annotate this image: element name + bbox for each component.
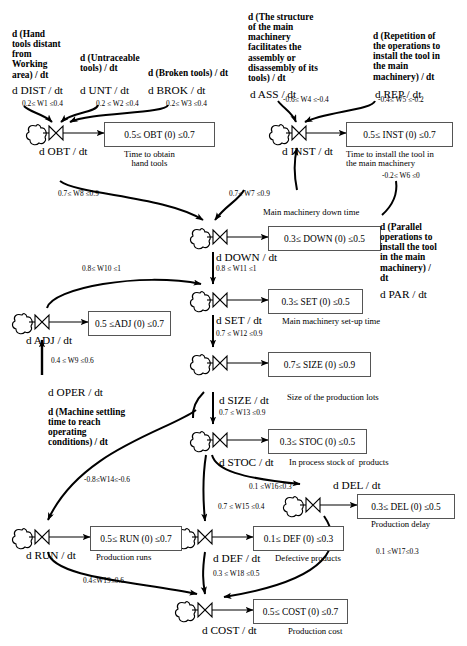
weight-label-W6: -0.2≤ W6 ≤0	[382, 172, 420, 180]
rate-label-SET: d SET / dt	[216, 314, 262, 326]
rate-label-RUN: d RUN / dt	[26, 549, 76, 561]
caption-DOWN: Main machinery down time	[263, 208, 359, 217]
caption-SIZE: Size of the production lots	[287, 393, 379, 402]
input-rate-PAR: d PAR / dt	[380, 288, 427, 300]
caption-DEF: Defective products	[275, 554, 341, 563]
weight-label-W17: 0.1 ≤W17≤0.3	[376, 548, 419, 556]
system-dynamics-diagram: d (Hand tools distant from Working area)…	[0, 0, 467, 646]
weight-label-W15: 0.7 ≤ W15 ≤0.4	[218, 503, 264, 511]
stock-box-SET: 0.3≤ SET (0) ≤0.5	[268, 289, 363, 314]
caption-SET: Main machinery set-up time	[282, 317, 380, 326]
stock-box-DOWN: 0.3≤ DOWN (0) ≤0.5	[268, 226, 381, 251]
stock-box-ADJ: 0.5 ≤ADJ (0) ≤0.7	[88, 311, 171, 336]
stock-box-SIZE: 0.7≤ SIZE (0) ≤0.9	[268, 352, 371, 377]
rate-label-COST: d COST / dt	[202, 624, 257, 636]
weight-label-W3: 0.2≤ W3 ≤0.4	[166, 100, 207, 108]
weight-label-W1: 0.2≤ W1 ≤0.4	[22, 100, 63, 108]
caption-DEL: Production delay	[371, 520, 430, 529]
rate-label-DOWN: d DOWN / dt	[216, 251, 277, 263]
weight-label-W9: 0.4 ≤ W9 ≤0.6	[51, 357, 94, 365]
rate-label-INST: d INST / dt	[282, 145, 333, 157]
weight-label-W5: -0.4≤ W5 ≤-0.2	[378, 96, 424, 104]
rate-label-OBT: d OBT / dt	[39, 145, 87, 157]
weight-label-W2: 0.2 ≤ W2 ≤0.4	[96, 100, 139, 108]
input-description-UNT: d (Untraceable tools) / dt	[80, 53, 140, 73]
stock-box-DEF: 0.1≤ DEF (0) ≤0.3	[253, 526, 344, 551]
weight-label-W14: -0.8≤W14≤-0.6	[84, 476, 130, 484]
stock-box-STOC: 0.3≤ STOC (0) ≤0.5	[268, 429, 367, 454]
stock-box-INST: 0.5≤ INST (0) ≤0.7	[346, 122, 453, 147]
input-rate-DIST: d DIST / dt	[12, 84, 63, 96]
weight-label-W13: 0.7 ≤ W13 ≤0.9	[219, 409, 265, 417]
weight-label-W11: 0.8 ≤ W11 ≤1	[216, 265, 257, 273]
weight-label-W7: 0.7≤ W7 ≤0.9	[229, 190, 270, 198]
weight-label-W4: -0.6≤ W4 ≤-0.4	[283, 96, 329, 104]
caption-RUN: Production runs	[96, 553, 151, 562]
input-description-OPER: d (Machine settling time to reach operat…	[48, 407, 125, 448]
rate-label-ADJ: d ADJ / dt	[26, 334, 72, 346]
weight-label-W18: 0.3 ≤ W18 ≤0.5	[213, 570, 259, 578]
caption-STOC: In process stock of products	[289, 458, 389, 467]
stock-box-DEL: 0.3≤ DEL (0) ≤0.5	[357, 494, 455, 519]
input-description-PAR: d (Parallel operations to install the to…	[380, 222, 437, 283]
stock-box-RUN: 0.5≤ RUN (0) ≤0.7	[90, 526, 182, 551]
rate-label-STOC: d STOC / dt	[219, 456, 274, 468]
caption-INST: Time to install the tool in the main mac…	[346, 150, 434, 169]
input-description-ASS: d (The structure of the main machinery f…	[248, 12, 318, 83]
weight-label-W19: 0.4≤W19≤0.6	[83, 577, 124, 585]
input-rate-OPER: d OPER / dt	[48, 386, 103, 398]
rate-label-SIZE: d SIZE / dt	[219, 394, 269, 406]
weight-label-W10: 0.8≤ W10 ≤1	[82, 265, 121, 273]
input-description-DIST: d (Hand tools distant from Working area)…	[12, 29, 61, 80]
input-rate-BROK: d BROK / dt	[148, 84, 205, 96]
stock-box-COST: 0.5≤ COST (0) ≤0.7	[253, 599, 348, 624]
stock-box-OBT: 0.5≤ OBT (0) ≤0.7	[104, 122, 215, 147]
input-description-BROK: d (Broken tools) / dt	[148, 68, 228, 78]
input-rate-UNT: d UNT / dt	[80, 84, 129, 96]
weight-label-W12: 0.7 ≤ W12 ≤0.9	[216, 330, 262, 338]
rate-label-DEF: d DEF / dt	[213, 552, 260, 564]
weight-label-W16: 0.1 ≤W16≤0.3	[249, 483, 292, 491]
input-description-REP: d (Repetition of the operations to insta…	[373, 31, 440, 82]
weight-label-W8: 0.7≤ W8 ≤0.9	[58, 190, 99, 198]
rate-label-DEL: d DEL / dt	[333, 479, 381, 491]
caption-COST: Production cost	[288, 627, 342, 636]
caption-OBT: Time to obtain hand tools	[124, 150, 175, 169]
